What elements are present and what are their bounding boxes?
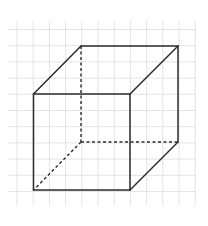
- cube-diagram: [0, 0, 208, 226]
- background: [0, 0, 208, 226]
